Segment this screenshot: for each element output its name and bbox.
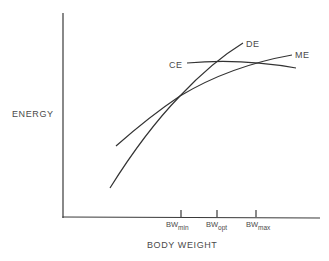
curve-me	[116, 55, 292, 146]
energy-body-weight-diagram: DE ME CE ENERGY BODY WEIGHT BWmin BWopt …	[0, 0, 329, 261]
curve-ce	[187, 61, 296, 68]
x-axis	[62, 217, 320, 218]
tick-label-bw-opt: BWopt	[206, 220, 227, 232]
tick-label-bw-max: BWmax	[246, 220, 271, 231]
label-de: DE	[246, 39, 260, 49]
label-ce: CE	[169, 60, 183, 70]
y-axis-title: ENERGY	[12, 109, 54, 119]
x-axis-title: BODY WEIGHT	[147, 240, 217, 250]
tick-label-bw-min: BWmin	[166, 220, 189, 231]
label-me: ME	[295, 50, 310, 60]
